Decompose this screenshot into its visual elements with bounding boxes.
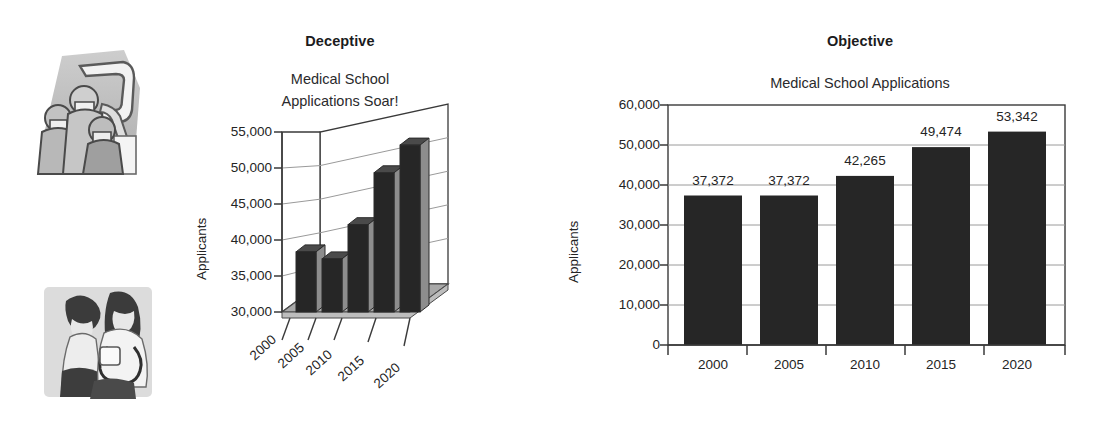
objective-value-label-2020: 53,342 [982, 109, 1052, 124]
panel-heading-objective: Objective [780, 33, 940, 49]
surgical-team-illustration [28, 48, 146, 178]
objective-ytick-10000: 10,000 [582, 297, 660, 312]
deceptive-ytick-55000: 55,000 [200, 124, 272, 139]
deceptive-bar-2010 [348, 218, 377, 312]
deceptive-bar-2005 [322, 252, 351, 312]
objective-value-label-2005: 37,372 [754, 173, 824, 188]
objective-bar-2020 [988, 132, 1046, 345]
objective-bar-2000 [684, 196, 742, 346]
chart-title-objective: Medical School Applications [690, 72, 1030, 94]
objective-y-axis-label: Applicants [566, 221, 581, 283]
objective-xtick-2015: 2015 [906, 357, 976, 372]
objective-y-ticks [660, 105, 668, 345]
doctor-patient-illustration [38, 285, 158, 400]
objective-ytick-60000: 60,000 [582, 97, 660, 112]
objective-ytick-40000: 40,000 [582, 177, 660, 192]
objective-bar-chart: Applicants 60,000 50,000 40,000 30,000 2… [560, 95, 1080, 385]
objective-xtick-2005: 2005 [754, 357, 824, 372]
deceptive-bar-2000 [296, 245, 325, 312]
objective-x-ticks [668, 345, 1065, 355]
deceptive-bar-2020 [400, 138, 429, 312]
chart-title-line-1: Medical School [250, 68, 430, 90]
objective-ytick-0: 0 [582, 337, 660, 352]
objective-value-label-2015: 49,474 [906, 124, 976, 139]
deceptive-bar-2015 [374, 166, 403, 312]
objective-bar-2015 [912, 147, 970, 345]
deceptive-y-axis [274, 132, 282, 312]
deceptive-x-ticks [282, 318, 410, 346]
surgical-team-graphic [28, 48, 146, 178]
deceptive-ytick-45000: 45,000 [200, 196, 272, 211]
objective-xtick-2000: 2000 [678, 357, 748, 372]
objective-bar-2005 [760, 196, 818, 346]
deceptive-ytick-50000: 50,000 [200, 160, 272, 175]
panel-heading-deceptive: Deceptive [260, 33, 420, 49]
deceptive-ytick-40000: 40,000 [200, 232, 272, 247]
doctor-patient-graphic [38, 285, 158, 400]
objective-ytick-50000: 50,000 [582, 137, 660, 152]
objective-xtick-2020: 2020 [982, 357, 1052, 372]
objective-value-label-2010: 42,265 [830, 153, 900, 168]
deceptive-ytick-35000: 35,000 [200, 268, 272, 283]
objective-xtick-2010: 2010 [830, 357, 900, 372]
objective-ytick-30000: 30,000 [582, 217, 660, 232]
objective-bar-2010 [836, 176, 894, 345]
objective-ytick-20000: 20,000 [582, 257, 660, 272]
deceptive-bar-chart: Applicants 55,000 50,000 45,000 40,000 3… [186, 100, 486, 390]
objective-value-label-2000: 37,372 [678, 173, 748, 188]
deceptive-ytick-30000: 30,000 [200, 304, 272, 319]
